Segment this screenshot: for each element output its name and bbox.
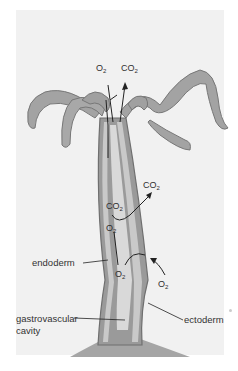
- tentacle-right-loop: [128, 96, 148, 110]
- gas-label-co2-out: CO2: [143, 180, 160, 191]
- gas-label-o2-low-out: O2: [158, 279, 168, 290]
- label-cavity: cavity: [16, 325, 40, 336]
- gas-label-co2-in: CO2: [106, 201, 123, 212]
- stray-mark: [229, 309, 232, 312]
- ectoderm-leader: [148, 303, 183, 320]
- gas-label-o2-low-in: O2: [115, 269, 125, 280]
- label-endoderm: endoderm: [32, 257, 75, 268]
- tentacle-right-lower: [148, 120, 190, 150]
- label-gastrovascular: gastrovascular: [16, 313, 78, 324]
- gas-label-co2-top: CO2: [121, 63, 138, 74]
- label-ectoderm: ectoderm: [184, 314, 224, 325]
- gas-label-o2-mid: O2: [106, 223, 116, 234]
- gas-label-o2-top: O2: [96, 63, 106, 74]
